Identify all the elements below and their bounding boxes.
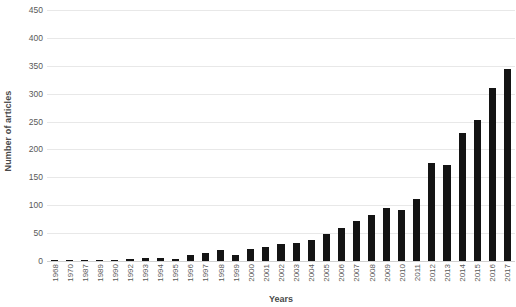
x-axis-tick-slot: 1997 [198, 263, 213, 295]
y-axis-tick: 200 [29, 144, 43, 154]
y-axis-tick-labels: 050100150200250300350400450 [16, 0, 46, 262]
x-axis-tick-slot: 2012 [424, 263, 439, 295]
bar [187, 255, 194, 261]
x-axis-tick-slot: 2009 [379, 263, 394, 295]
bar [247, 249, 254, 261]
x-axis-tick: 1999 [231, 264, 240, 282]
x-axis-tick-slot: 2010 [394, 263, 409, 295]
bar-slot [243, 0, 258, 261]
y-axis-tick: 350 [29, 61, 43, 71]
x-axis-tick: 2011 [412, 264, 421, 281]
bar-slot [289, 0, 304, 261]
bar [51, 260, 58, 261]
x-axis-tick: 1990 [110, 264, 119, 282]
bar [81, 260, 88, 261]
x-axis-tick-slot: 2017 [500, 263, 515, 295]
bar [504, 69, 511, 261]
bar [96, 260, 103, 261]
bar-slot [439, 0, 454, 261]
x-axis-tick-slot: 1992 [122, 263, 137, 295]
bar-slot [409, 0, 424, 261]
plot-area [47, 0, 515, 262]
x-axis-tick-slot: 1968 [47, 263, 62, 295]
bar-slot [470, 0, 485, 261]
bar-slot [153, 0, 168, 261]
bar-slot [77, 0, 92, 261]
x-axis-tick: 2014 [458, 264, 467, 282]
x-axis-tick: 2010 [397, 264, 406, 282]
x-axis-tick-slot: 2014 [455, 263, 470, 295]
bar-slot [304, 0, 319, 261]
y-axis-title: Number of articles [0, 0, 16, 262]
x-axis-tick: 1997 [201, 264, 210, 282]
x-axis-tick-slot: 2016 [485, 263, 500, 295]
bar-slot [349, 0, 364, 261]
bar-slot [500, 0, 515, 261]
bar-slot [228, 0, 243, 261]
x-axis-tick-slot: 1989 [92, 263, 107, 295]
x-axis-tick-slot: 2006 [334, 263, 349, 295]
x-axis-tick-slot: 1994 [153, 263, 168, 295]
x-axis-tick-slot: 1998 [213, 263, 228, 295]
x-axis-tick-slot: 2007 [349, 263, 364, 295]
bar [489, 88, 496, 261]
y-axis-tick: 150 [29, 172, 43, 182]
bar [262, 247, 269, 261]
x-axis-tick-slot: 2008 [364, 263, 379, 295]
bar-slot [319, 0, 334, 261]
bar-slot [424, 0, 439, 261]
bar-slot [334, 0, 349, 261]
x-axis-tick-slot: 2003 [289, 263, 304, 295]
x-axis-tick-slot: 2013 [439, 263, 454, 295]
x-axis-tick-slot: 1995 [168, 263, 183, 295]
bar [217, 250, 224, 261]
bar [157, 258, 164, 261]
x-axis-tick: 2005 [322, 264, 331, 282]
bar-slot [198, 0, 213, 261]
bar [66, 260, 73, 261]
x-axis-tick: 2008 [367, 264, 376, 282]
x-axis-tick: 2001 [261, 264, 270, 282]
x-axis-tick-slot: 2011 [409, 263, 424, 295]
bar [142, 258, 149, 261]
x-axis-tick: 2004 [307, 264, 316, 282]
bar-slot [213, 0, 228, 261]
x-axis-tick: 2013 [442, 264, 451, 282]
bar [413, 199, 420, 261]
x-axis-tick: 1970 [65, 264, 74, 282]
x-axis-tick: 2012 [427, 264, 436, 282]
bar-slot [62, 0, 77, 261]
x-axis-tick: 2015 [473, 264, 482, 282]
gridline [47, 261, 515, 262]
y-axis-tick: 50 [34, 228, 43, 238]
bar [111, 260, 118, 261]
bar [428, 163, 435, 261]
bar-slot [138, 0, 153, 261]
x-axis-tick: 1993 [141, 264, 150, 282]
x-axis-tick-slot: 2001 [258, 263, 273, 295]
x-axis-tick-slot: 1970 [62, 263, 77, 295]
bar-chart: Number of articles 050100150200250300350… [0, 0, 516, 307]
y-axis-tick: 400 [29, 33, 43, 43]
bar [232, 255, 239, 261]
bar-slot [485, 0, 500, 261]
bar-slot [183, 0, 198, 261]
bar [277, 244, 284, 261]
x-axis-tick: 2002 [276, 264, 285, 282]
bar-slot [273, 0, 288, 261]
x-axis-tick: 1968 [50, 264, 59, 282]
bar [459, 133, 466, 261]
y-axis-tick: 300 [29, 89, 43, 99]
y-axis-tick: 100 [29, 200, 43, 210]
x-axis-tick-slot: 2002 [273, 263, 288, 295]
x-axis-tick: 1998 [216, 264, 225, 282]
x-axis-tick: 1987 [80, 264, 89, 282]
bar [353, 221, 360, 261]
bar [443, 165, 450, 261]
y-axis-title-label: Number of articles [3, 91, 13, 172]
bar-slot [364, 0, 379, 261]
bar [308, 240, 315, 261]
bar [202, 253, 209, 261]
x-axis-tick-slot: 2015 [470, 263, 485, 295]
x-axis-tick: 2000 [246, 264, 255, 282]
